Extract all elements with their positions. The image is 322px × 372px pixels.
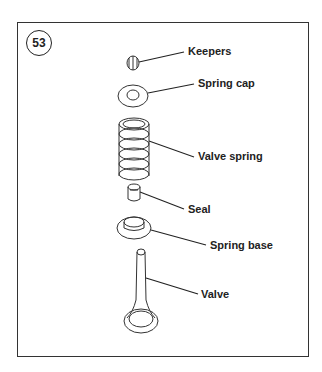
label-valve-spring: Valve spring	[198, 150, 263, 162]
keepers-part	[127, 56, 139, 70]
valve-assembly-illustration	[0, 0, 322, 372]
label-keepers: Keepers	[188, 45, 231, 57]
spring-cap-part	[118, 85, 148, 107]
label-valve: Valve	[201, 288, 229, 300]
spring-base-part	[117, 217, 151, 239]
valve-part	[124, 249, 158, 333]
label-spring-base: Spring base	[210, 239, 273, 251]
label-seal: Seal	[188, 203, 211, 215]
seal-part	[128, 184, 140, 201]
label-spring-cap: Spring cap	[198, 77, 255, 89]
valve-spring-part	[119, 118, 149, 180]
